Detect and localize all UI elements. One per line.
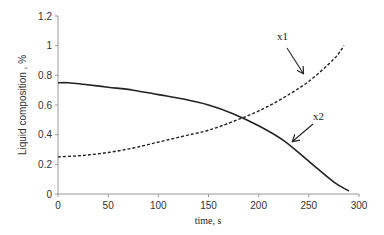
series-x1-line [58,46,344,157]
x-tick-label: 100 [150,200,167,211]
y-tick-label: 1.2 [38,11,52,22]
y-tick-label: 0.2 [38,159,52,170]
y-tick-label: 0.6 [38,100,52,111]
series-x2-line [58,83,349,191]
x-tick-label: 200 [250,200,267,211]
x-tick-label: 250 [300,200,317,211]
annotation-x2: x2 [313,110,324,122]
x-tick-label: 150 [200,200,217,211]
annotations: x1x2 [277,30,324,141]
x-tick-label: 50 [103,200,115,211]
line-chart: 00.20.40.60.811.2050100150200250300 x1x2… [0,0,384,235]
x-tick-label: 300 [351,200,368,211]
arrow-icon [293,124,313,141]
data-series [58,46,349,191]
arrow-icon [287,48,303,73]
y-axis-title: Liquid composition , % [17,55,28,155]
axes [55,16,359,197]
x-tick-label: 0 [55,200,61,211]
y-tick-label: 1 [46,40,52,51]
x-axis-title: time, s [195,215,222,226]
y-tick-label: 0.8 [38,70,52,81]
y-tick-label: 0.4 [38,129,52,140]
annotation-x1: x1 [277,30,288,42]
y-tick-label: 0 [46,189,52,200]
